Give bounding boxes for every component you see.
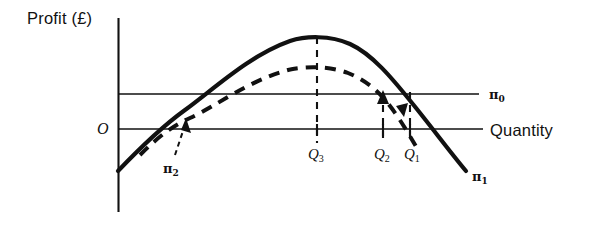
x-axis-title: Quantity	[490, 121, 554, 139]
q1-intersection-arrow-icon	[396, 103, 408, 117]
profit-curve-figure: Profit (£) O Quantity Q3 Q2 Q1 π0 π1 π2	[0, 0, 599, 227]
curve-label-pi0: π0	[489, 87, 505, 104]
curve-label-pi2: π2	[163, 161, 179, 178]
origin-label: O	[97, 120, 109, 137]
tick-label-q1: Q1	[404, 146, 420, 164]
tick-label-q2: Q2	[374, 146, 390, 164]
tick-label-q3: Q3	[308, 146, 324, 164]
profit-quantity-chart: Profit (£) O Quantity Q3 Q2 Q1 π0 π1 π2	[0, 0, 599, 227]
curve-label-pi1: π1	[472, 169, 488, 186]
y-axis-title: Profit (£)	[27, 9, 92, 27]
pi2-annotation-arrow-stem	[175, 128, 184, 155]
